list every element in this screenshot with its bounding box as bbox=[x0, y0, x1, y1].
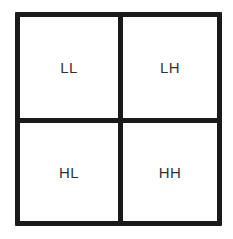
cell-lh: LH bbox=[123, 17, 217, 118]
cell-ll: LL bbox=[20, 17, 118, 118]
cell-label-lh: LH bbox=[160, 59, 180, 76]
cell-hl: HL bbox=[20, 123, 118, 221]
cell-hh: HH bbox=[123, 123, 217, 221]
cell-label-hh: HH bbox=[159, 164, 182, 181]
cell-label-hl: HL bbox=[59, 164, 79, 181]
horizontal-divider bbox=[20, 118, 217, 123]
subband-grid: LL LH HL HH bbox=[15, 12, 222, 226]
cell-label-ll: LL bbox=[60, 59, 78, 76]
